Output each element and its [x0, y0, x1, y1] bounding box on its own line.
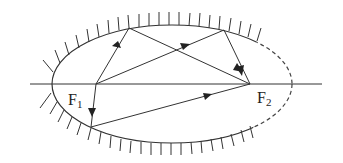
focus-label-f1: F1 — [68, 91, 82, 110]
arrow-icon — [88, 108, 96, 117]
arrow-icon — [180, 43, 190, 50]
ray-arrowheads — [88, 41, 244, 117]
light-rays — [91, 28, 250, 127]
ellipse-reflection-diagram: F1 F2 — [0, 0, 343, 163]
arrow-icon — [203, 93, 212, 100]
focus-label-f2: F2 — [257, 89, 271, 108]
